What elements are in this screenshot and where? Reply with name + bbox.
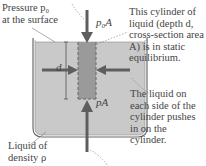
- liquid-density-label: Liquid of density ρ: [8, 140, 47, 163]
- side-note: The liquid on each side of the cylinder …: [130, 88, 196, 146]
- cylinder-note: This cylinder of liquid (depth d, cross-…: [129, 6, 204, 64]
- label-line: cylinder pushes: [130, 111, 196, 123]
- label-line: equilibrium.: [129, 52, 204, 64]
- label-line: cross-section area: [129, 29, 204, 41]
- label-line: liquid (depth d,: [129, 18, 204, 30]
- label-line: Liquid of: [8, 140, 47, 152]
- label-line: This cylinder of: [129, 6, 204, 18]
- label-line: The liquid on: [130, 88, 196, 100]
- label-line: at the surface: [2, 14, 58, 26]
- label-line: A) is in static: [129, 41, 204, 53]
- label-line: each side of the: [130, 100, 196, 112]
- depth-label: d: [56, 62, 62, 74]
- label-line: density ρ: [8, 152, 47, 164]
- label-line: cylinder.: [130, 134, 196, 146]
- top-force-label: p₀A: [96, 17, 112, 29]
- bottom-force-label: pA: [96, 97, 108, 109]
- liquid-cylinder: [78, 42, 96, 99]
- surface-pressure-label: Pressure p₀ at the surface: [2, 2, 58, 25]
- label-line: Pressure p₀: [2, 2, 58, 14]
- label-line: in on the: [130, 123, 196, 135]
